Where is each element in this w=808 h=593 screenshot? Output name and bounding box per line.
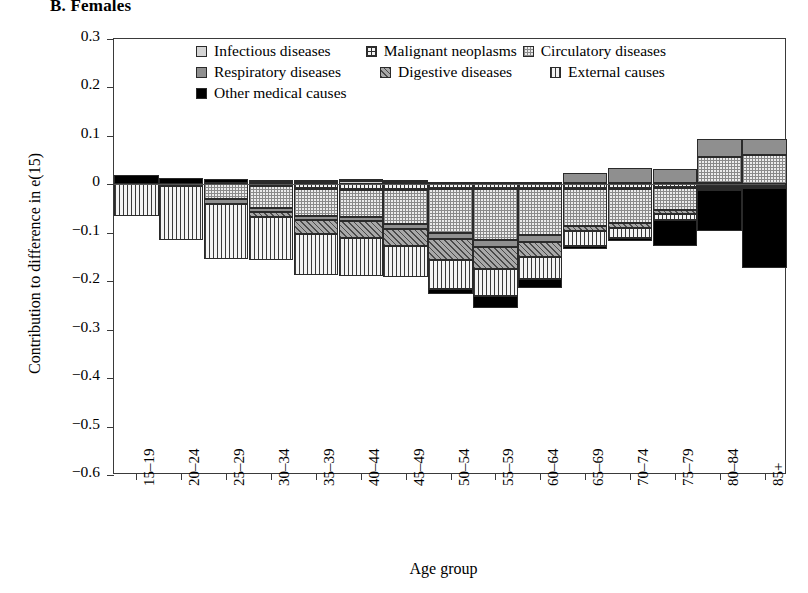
bar-segment-circulatory [697,157,741,184]
legend-row: Infectious diseasesMalignant neoplasmsCi… [196,42,666,60]
bar-segment-external [473,269,517,296]
x-tick [451,473,452,480]
bar-segment-external [114,184,158,215]
bar-segment-other [473,296,517,308]
bar-segment-other [563,246,607,249]
legend-label: Other medical causes [214,84,347,102]
legend-label: External causes [568,63,665,81]
bar-column[interactable] [742,39,786,475]
legend-item-respiratory[interactable]: Respiratory diseases [196,63,380,81]
bar-segment-respiratory [697,139,741,157]
x-axis-title: Age group [410,560,478,578]
x-tick-label: 70–74 [635,449,652,487]
bar-segment-external [249,217,293,261]
y-tick [107,330,114,331]
bar-segment-circulatory [563,189,607,225]
bar-segment-external [428,260,472,289]
bar-segment-other [294,180,338,182]
bar-segment-circulatory [428,189,472,233]
x-tick-label: 15–19 [141,449,158,487]
bar-segment-digestive [473,247,517,269]
y-tick [107,378,114,379]
bar-segment-other [428,289,472,294]
bar-segment-external [608,228,652,238]
legend-row: Respiratory diseasesDigestive diseasesEx… [196,63,666,81]
bar-segment-external [204,204,248,260]
external-swatch-icon [550,67,561,78]
x-tick [495,473,496,480]
x-tick [361,473,362,480]
y-tick [107,87,114,88]
bar-segment-other [742,188,786,268]
bar-segment-other [204,179,248,183]
y-tick [107,233,114,234]
y-tick [107,427,114,428]
x-tick-label: 75–79 [680,449,697,487]
bar-segment-circulatory [742,155,786,184]
x-tick-label: 65–69 [590,449,607,487]
x-tick [271,473,272,480]
y-tick-label: −0.5 [0,415,100,433]
y-tick-label: 0.2 [0,75,100,93]
x-tick-label: 35–39 [321,449,338,487]
bar-segment-other [697,190,741,231]
legend-label: Respiratory diseases [214,63,341,81]
bar-segment-circulatory [653,188,697,210]
bar-segment-circulatory [294,189,338,216]
x-tick [316,473,317,480]
y-tick-label: −0.6 [0,463,100,481]
y-tick-label: 0.1 [0,124,100,142]
bar-segment-circulatory [204,184,248,199]
legend-item-external[interactable]: External causes [550,63,665,81]
legend-row: Other medical causes [196,84,666,102]
x-tick [585,473,586,480]
y-tick [107,184,114,185]
x-tick [675,473,676,480]
legend-item-malignant[interactable]: Malignant neoplasms [366,42,523,60]
legend-item-digestive[interactable]: Digestive diseases [380,63,550,81]
x-tick [406,473,407,480]
legend-item-circulatory[interactable]: Circulatory diseases [523,42,666,60]
legend-item-infectious[interactable]: Infectious diseases [196,42,366,60]
x-tick-label: 40–44 [366,449,383,487]
bar-segment-circulatory [383,190,427,224]
x-tick-label: 20–24 [186,449,203,487]
legend-label: Malignant neoplasms [384,42,517,60]
bar-segment-respiratory [518,235,562,242]
x-tick-label: 25–29 [231,449,248,487]
x-tick [630,473,631,480]
bar-segment-circulatory [608,189,652,223]
bar-segment-external [563,231,607,246]
bar-segment-digestive [428,239,472,261]
x-tick-label: 80–84 [725,449,742,487]
bar-segment-respiratory [473,240,517,247]
circulatory-swatch-icon [523,46,534,57]
y-tick-label: −0.3 [0,318,100,336]
y-tick [107,281,114,282]
x-tick [181,473,182,480]
x-tick-label: 85+ [770,463,787,486]
bar-segment-external [159,186,203,239]
bar-segment-digestive [294,220,338,235]
bar-segment-other [339,179,383,182]
x-tick [136,473,137,480]
bar-segment-other [383,180,427,182]
digestive-swatch-icon [380,67,391,78]
bar-segment-other [249,180,293,182]
x-tick-label: 50–54 [456,449,473,487]
bar-segment-external [383,246,427,277]
chart-legend: Infectious diseasesMalignant neoplasmsCi… [196,42,666,105]
bar-column[interactable] [697,39,741,475]
legend-label: Circulatory diseases [541,42,666,60]
bar-column[interactable] [114,39,158,475]
y-tick [107,39,114,40]
bar-segment-other [608,238,652,242]
legend-item-other[interactable]: Other medical causes [196,84,380,102]
y-tick-label: 0.3 [0,27,100,45]
x-tick [226,473,227,480]
x-tick [720,473,721,480]
y-tick-label: −0.4 [0,366,100,384]
bar-segment-respiratory [653,169,697,184]
y-tick-label: −0.1 [0,221,100,239]
legend-label: Digestive diseases [398,63,512,81]
